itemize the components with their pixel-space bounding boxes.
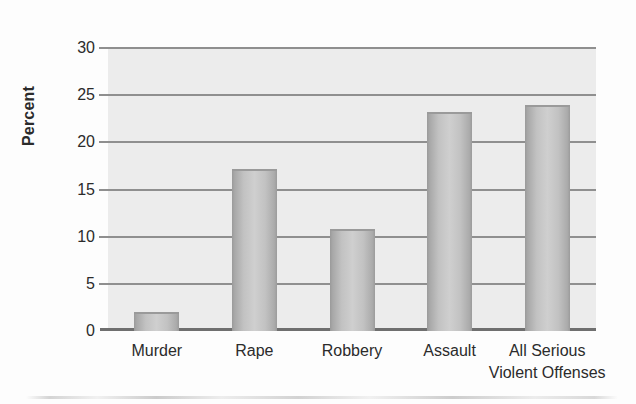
x-axis-category-label: Murder bbox=[131, 340, 182, 362]
x-axis-category-label: Rape bbox=[235, 340, 273, 362]
y-axis-tick-mark bbox=[99, 189, 108, 191]
y-axis-tick-label: 10 bbox=[77, 228, 95, 246]
gridline bbox=[108, 47, 596, 49]
x-axis-category-label-line1: Rape bbox=[235, 342, 273, 359]
x-axis-category-label-line1: Murder bbox=[131, 342, 182, 359]
bar-chart-figure: Percent 051015202530 MurderRapeRobberyAs… bbox=[0, 0, 636, 404]
x-axis-category-label-line1: Assault bbox=[423, 342, 475, 359]
x-axis-category-label: Assault bbox=[423, 340, 475, 362]
y-axis-tick-mark bbox=[99, 47, 108, 49]
y-axis-tick-label: 25 bbox=[77, 86, 95, 104]
bar bbox=[232, 169, 277, 331]
y-axis-tick-mark bbox=[99, 141, 108, 143]
y-axis-title: Percent bbox=[16, 61, 42, 171]
x-axis-category-label-line1: All Serious bbox=[509, 342, 585, 359]
bar bbox=[525, 105, 570, 331]
bar bbox=[330, 229, 375, 331]
x-axis-category-label: All SeriousViolent Offenses bbox=[489, 340, 606, 384]
y-axis-tick-mark bbox=[99, 94, 108, 96]
x-axis-category-label: Robbery bbox=[322, 340, 382, 362]
y-axis-tick-label: 0 bbox=[86, 322, 95, 340]
y-axis-tick-label: 15 bbox=[77, 181, 95, 199]
gridline bbox=[108, 189, 596, 191]
scan-artifact bbox=[26, 396, 618, 399]
x-axis-category-label-line1: Robbery bbox=[322, 342, 382, 359]
x-axis-category-label-line2: Violent Offenses bbox=[489, 362, 606, 384]
y-axis-tick-label: 30 bbox=[77, 39, 95, 57]
y-axis-tick-label: 20 bbox=[77, 133, 95, 151]
gridline bbox=[108, 94, 596, 96]
y-axis-tick-mark bbox=[99, 283, 108, 285]
plot-area: 051015202530 bbox=[108, 48, 596, 331]
y-axis-tick-label: 5 bbox=[86, 275, 95, 293]
bar bbox=[427, 112, 472, 331]
bar bbox=[134, 312, 179, 331]
gridline bbox=[108, 141, 596, 143]
x-axis-labels: MurderRapeRobberyAssaultAll SeriousViole… bbox=[108, 340, 596, 400]
y-axis-tick-mark bbox=[99, 236, 108, 238]
